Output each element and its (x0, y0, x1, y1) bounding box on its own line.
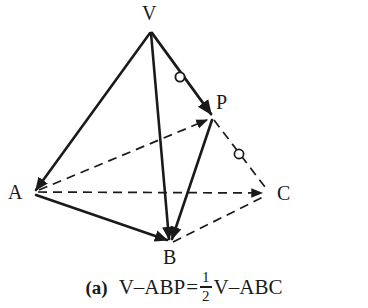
visible-edges-group (36, 33, 212, 240)
tetrahedron-diagram (0, 0, 368, 308)
caption-formula: V–ABP = 1 2 V–ABC (119, 271, 283, 305)
tick-on-VP (175, 72, 184, 81)
vertex-label-C: C (277, 183, 290, 203)
formula-fraction: 1 2 (200, 270, 212, 304)
formula-equals-sign: = (186, 275, 198, 300)
vertex-label-A: A (8, 182, 22, 202)
edge-A-B (36, 195, 167, 240)
edge-A-C (38, 192, 262, 193)
edge-V-B (151, 33, 169, 239)
vertex-label-B: B (163, 247, 176, 267)
fraction-denominator: 2 (200, 289, 212, 304)
edge-A-P (39, 120, 207, 190)
vertex-label-P: P (216, 92, 227, 112)
tick-on-PC (234, 149, 243, 158)
fraction-numerator: 1 (200, 270, 212, 285)
figure-caption: (a) V–ABP = 1 2 V–ABC (0, 268, 368, 308)
edge-P-B (172, 120, 212, 239)
figure-root: V A B C P (a) V–ABP = 1 2 V–ABC (0, 0, 368, 308)
formula-left-term: V–ABP (119, 275, 186, 300)
formula-right-term: V–ABC (214, 275, 283, 300)
edge-B-C (173, 195, 267, 242)
vertex-label-V: V (142, 3, 156, 23)
caption-index: (a) (86, 277, 108, 299)
edge-V-A (36, 33, 150, 190)
